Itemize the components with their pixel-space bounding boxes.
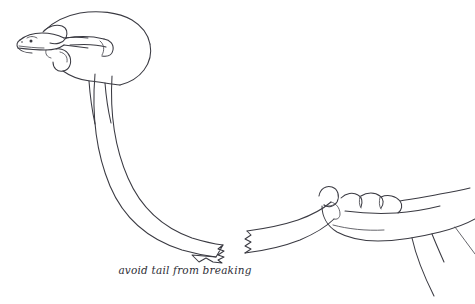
right-hand-index-finger [341,193,362,207]
detached-tail-top-edge [247,202,331,231]
tail-inner-edge [112,76,223,245]
figure-caption: avoid tail from breaking [0,264,370,276]
right-hand-finger-crease-2 [379,197,381,209]
lizard-eye-ridge [27,37,37,39]
right-hand-ring-finger [381,196,402,213]
left-hand-forefinger-top [43,25,67,38]
right-hand [319,186,475,296]
line-drawing-canvas [0,0,475,304]
lizard-neck-top [64,37,88,38]
tail-break-jagged-right [245,231,251,253]
left-hand [43,12,151,124]
right-sleeve-edge [455,227,475,254]
left-hand-back-outline [44,12,150,44]
lizard-nostril-icon [21,41,23,43]
left-hand-thumb-nail [60,52,67,62]
lizard-mouth [19,46,44,48]
right-hand-back-outline [400,188,470,201]
lizard-neck-bottom [64,45,88,48]
detached-tail-bottom-edge [245,219,334,253]
right-hand-finger-pad-line [345,206,440,213]
detached-tail-segment [245,202,340,253]
left-hand-knuckle-to-wrist [120,44,151,85]
lizard-tail-main [94,74,224,263]
lizard-head-top [20,33,64,40]
right-hand-palm-crease [333,225,384,230]
left-hand-wrist-inner [105,83,111,123]
lizard-eye-icon [30,40,33,43]
tail-outer-edge [94,74,216,257]
left-hand-forefinger-under [50,38,66,44]
lizard-limb [46,50,51,58]
right-wrist-line-inner [432,234,444,262]
illustration-figure: avoid tail from breaking [0,0,475,304]
left-hand-ring-finger-crease [100,41,104,55]
lizard-head-group [17,33,88,58]
right-wrist-line-outer [412,238,434,296]
